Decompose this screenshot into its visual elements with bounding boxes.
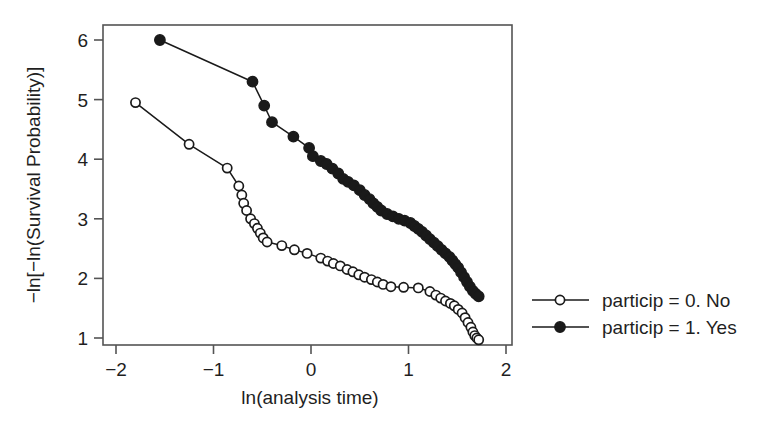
data-point-marker bbox=[263, 237, 272, 246]
data-point-marker bbox=[474, 291, 484, 301]
data-point-marker bbox=[185, 140, 194, 149]
x-tick-label: 0 bbox=[306, 359, 317, 380]
y-tick-label: 1 bbox=[77, 328, 88, 349]
data-point-marker bbox=[399, 283, 408, 292]
data-point-marker bbox=[303, 249, 312, 258]
data-point-marker bbox=[288, 131, 298, 141]
data-point-marker bbox=[247, 77, 257, 87]
data-point-marker bbox=[131, 98, 140, 107]
data-point-marker bbox=[155, 35, 165, 45]
x-tick-label: −2 bbox=[105, 359, 127, 380]
y-tick-label: 2 bbox=[77, 268, 88, 289]
y-axis-title: −ln[−ln(Survival Probability)] bbox=[23, 67, 44, 304]
legend-label: particip = 0. No bbox=[602, 290, 730, 311]
legend-marker bbox=[555, 295, 564, 304]
x-tick-label: 2 bbox=[501, 359, 512, 380]
data-point-marker bbox=[414, 283, 423, 292]
data-point-marker bbox=[223, 164, 232, 173]
data-point-marker bbox=[277, 241, 286, 250]
data-point-marker bbox=[386, 282, 395, 291]
survival-plot-figure: −2−1012 123456 ln(analysis time) −ln[−ln… bbox=[0, 0, 764, 430]
y-tick-label: 5 bbox=[77, 90, 88, 111]
y-tick-label: 3 bbox=[77, 209, 88, 230]
data-point-marker bbox=[259, 100, 269, 110]
x-tick-label: −1 bbox=[203, 359, 225, 380]
plot-canvas: −2−1012 123456 ln(analysis time) −ln[−ln… bbox=[0, 0, 764, 430]
data-point-marker bbox=[474, 335, 483, 344]
legend-label: particip = 1. Yes bbox=[602, 317, 737, 338]
data-point-marker bbox=[234, 181, 243, 190]
data-point-marker bbox=[267, 117, 277, 127]
data-point-marker bbox=[290, 245, 299, 254]
legend-marker bbox=[555, 322, 565, 332]
x-tick-label: 1 bbox=[403, 359, 414, 380]
y-tick-label: 6 bbox=[77, 30, 88, 51]
x-axis-title: ln(analysis time) bbox=[241, 387, 378, 408]
y-tick-label: 4 bbox=[77, 149, 88, 170]
